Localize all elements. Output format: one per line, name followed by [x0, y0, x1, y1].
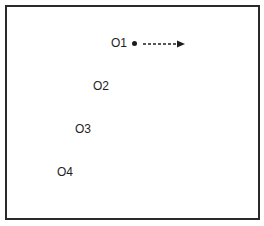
position-dot-icon [132, 41, 137, 46]
dashed-arrow-icon [142, 38, 188, 50]
object-label-o1: O1 [111, 37, 127, 49]
object-label-o4: O4 [57, 166, 73, 178]
object-label-o3: O3 [75, 123, 91, 135]
diagram-frame [5, 5, 260, 220]
object-label-o2: O2 [93, 80, 109, 92]
